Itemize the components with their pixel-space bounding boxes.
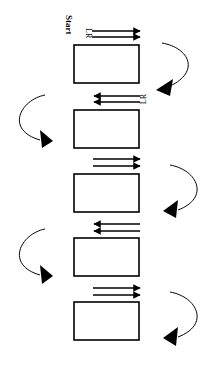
serpentine-diagram: Start LR LR [0, 0, 213, 366]
arrowhead-icon [163, 327, 178, 346]
box-1 [74, 45, 139, 83]
arrowhead-icon [156, 79, 173, 96]
arrow-group-row-2: LR [94, 93, 148, 104]
box-3 [74, 174, 139, 212]
box-5 [74, 302, 139, 340]
arrow-group-row-1: LR [84, 28, 140, 39]
arrow-group-row-5 [93, 288, 140, 295]
arrowhead-icon [40, 130, 53, 148]
lr-label: LR [84, 28, 93, 39]
arrowhead-icon [40, 265, 53, 284]
arrow-group-row-4 [94, 224, 140, 231]
lr-label: LR [139, 93, 148, 104]
box-4 [74, 238, 139, 276]
start-label: Start [64, 15, 74, 35]
box-2 [74, 110, 139, 148]
arrowhead-icon [163, 200, 178, 218]
arrow-group-row-3 [93, 159, 140, 166]
curved-arrow-icon [162, 43, 188, 86]
